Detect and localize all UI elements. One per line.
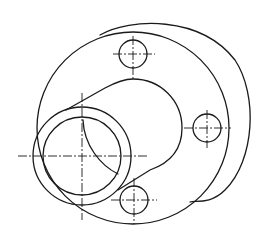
bolt-hole-top	[113, 36, 155, 79]
boss-hidden-arc	[83, 120, 118, 174]
boss-outline	[66, 79, 182, 190]
drawing-canvas	[0, 0, 261, 241]
bolt-hole-right	[184, 110, 231, 148]
flange-drawing	[0, 0, 261, 241]
bolt-hole-bottom	[111, 178, 157, 224]
